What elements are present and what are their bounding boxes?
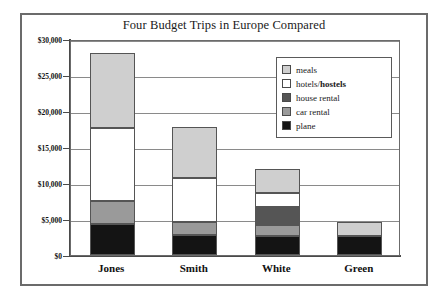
x-axis-label-green: Green <box>309 262 409 274</box>
legend-item-label: car rental <box>296 107 330 117</box>
y-axis-tick-label: $30,000 <box>4 36 62 45</box>
legend-swatch-icon <box>282 93 291 102</box>
bar-segment-meals <box>90 53 135 127</box>
bar-segment-plane <box>337 236 382 255</box>
bar-segment-meals <box>255 169 300 193</box>
bar-segment-plane <box>90 224 135 255</box>
bar-segment-car-rental <box>172 222 217 235</box>
bar-segment-plane <box>172 235 217 255</box>
legend-item[interactable]: hotels/hostels <box>282 77 386 90</box>
chart-title: Four Budget Trips in Europe Compared <box>20 18 428 33</box>
legend-item[interactable]: meals <box>282 63 386 76</box>
y-axis-tick-label: $25,000 <box>4 72 62 81</box>
legend-swatch-icon <box>282 79 291 88</box>
bar-segment-plane <box>255 236 300 255</box>
bar-segment-meals <box>337 222 382 236</box>
bar-segment-house-rental <box>255 207 300 226</box>
legend-item-label: house rental <box>296 93 340 103</box>
bar-stack <box>172 39 217 255</box>
legend-item-label: meals <box>296 65 317 75</box>
legend-item[interactable]: house rental <box>282 91 386 104</box>
bar-segment-car-rental <box>90 201 135 224</box>
legend-swatch-icon <box>282 121 291 130</box>
bar-segment-hotels-hostels <box>90 128 135 201</box>
legend-item-label: plane <box>296 121 316 131</box>
y-axis-tick-label: $10,000 <box>4 180 62 189</box>
y-axis-tick-label: $5,000 <box>4 216 62 225</box>
bar-segment-car-rental <box>255 225 300 235</box>
bar-segment-hotels-hostels <box>172 178 217 222</box>
legend-item[interactable]: plane <box>282 119 386 132</box>
y-axis-labels: $0$5,000$10,000$15,000$20,000$25,000$30,… <box>0 0 62 302</box>
legend-item-label: hotels/hostels <box>296 79 346 89</box>
y-axis-tick-label: $15,000 <box>4 144 62 153</box>
chart-figure: Four Budget Trips in Europe Compared $0$… <box>0 0 446 302</box>
bar-segment-hotels-hostels <box>255 193 300 207</box>
y-axis-tick-label: $20,000 <box>4 108 62 117</box>
legend-swatch-icon <box>282 107 291 116</box>
bar-segment-meals <box>172 127 217 178</box>
y-axis-tick-label: $0 <box>4 252 62 261</box>
bar-stack <box>90 39 135 255</box>
legend-swatch-icon <box>282 65 291 74</box>
chart-legend: mealshotels/hostelshouse rentalcar renta… <box>276 57 392 138</box>
legend-item[interactable]: car rental <box>282 105 386 118</box>
